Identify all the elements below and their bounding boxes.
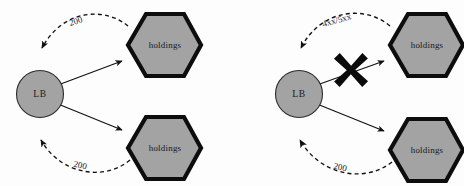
left-panel: holdings holdings LB 200 200	[17, 14, 202, 179]
response-label-top-left: 200	[68, 14, 84, 28]
load-balancer-label-left: LB	[33, 89, 46, 99]
response-label-top-right: 4xx/5xx	[321, 11, 353, 29]
load-balancer-label-right: LB	[292, 89, 305, 99]
request-edge-bottom-left	[58, 104, 122, 130]
backend-label-top-right: holdings	[411, 40, 444, 50]
response-arc-top-left	[42, 14, 128, 48]
figure-root: holdings holdings LB 200 200 holdings	[0, 0, 464, 186]
request-edge-bottom-right	[317, 104, 384, 131]
backend-label-top-left: holdings	[149, 40, 182, 50]
backend-label-bottom-right: holdings	[411, 145, 444, 155]
request-edge-top-left	[58, 61, 122, 85]
blocked-path-x-icon	[323, 42, 380, 99]
response-label-bottom-left: 200	[73, 159, 89, 172]
diagram-canvas: holdings holdings LB 200 200 holdings	[0, 0, 464, 186]
response-label-bottom-right: 200	[333, 161, 349, 174]
backend-label-bottom-left: holdings	[149, 143, 182, 153]
right-panel: holdings holdings LB 4xx/5xx 200	[276, 11, 464, 181]
